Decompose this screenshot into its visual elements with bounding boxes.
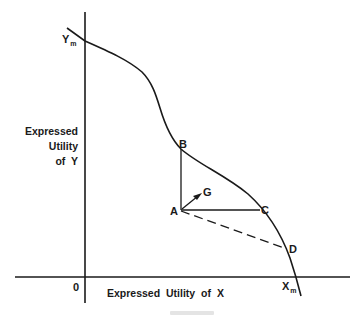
label-origin: 0: [73, 282, 79, 293]
label-y-max: Ym: [62, 34, 77, 45]
x-max-base: X: [282, 280, 289, 292]
label-point-g: G: [203, 187, 212, 198]
figure-caption-faded: [170, 311, 214, 315]
x-axis-label: Expressed Utility of X: [107, 287, 224, 299]
y-axis-label-line-2: Utility: [22, 139, 78, 154]
y-axis-label-line-3: of Y: [22, 154, 78, 169]
label-point-c: C: [261, 205, 269, 216]
label-point-d: D: [289, 244, 297, 255]
label-point-a: A: [170, 206, 178, 217]
y-axis-label: Expressed Utility of Y: [22, 124, 78, 169]
x-max-subscript: m: [290, 287, 296, 294]
y-axis-label-line-1: Expressed: [22, 124, 78, 139]
label-point-b: B: [179, 139, 187, 150]
label-x-max: Xm: [282, 281, 297, 292]
y-max-subscript: m: [70, 40, 76, 47]
utility-frontier-curve: [67, 28, 301, 296]
y-max-base: Y: [62, 33, 69, 45]
segment-a-d-dashed: [181, 211, 287, 249]
